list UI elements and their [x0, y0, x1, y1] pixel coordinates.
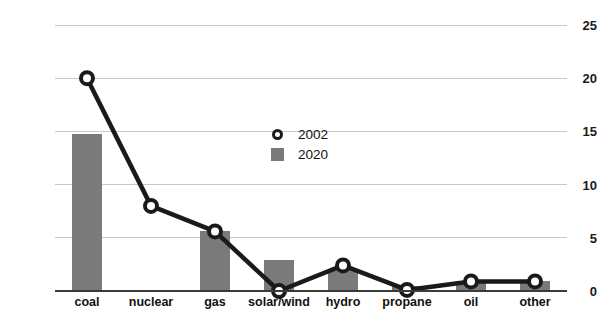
legend-label-2020: 2020 — [298, 147, 328, 162]
circle-marker-icon — [264, 129, 290, 140]
chart-container: 0510152025 coalnucleargassolar/windhydro… — [0, 0, 597, 333]
gridline — [55, 25, 567, 26]
gridline — [55, 78, 567, 79]
x-tick-label: oil — [439, 296, 503, 310]
bar — [72, 134, 101, 291]
x-axis-line — [55, 290, 567, 292]
y-tick-label: 5 — [553, 231, 597, 244]
y-tick-label: 10 — [553, 178, 597, 191]
x-tick-label: other — [503, 296, 567, 310]
gridline — [55, 184, 567, 185]
x-tick-label: hydro — [311, 296, 375, 310]
bar — [328, 269, 357, 291]
x-tick-label: propane — [375, 296, 439, 310]
x-tick-label: nuclear — [119, 296, 183, 310]
legend-label-2002: 2002 — [298, 127, 328, 142]
x-tick-label: gas — [183, 296, 247, 310]
data-point-marker — [145, 200, 157, 212]
y-tick-label: 20 — [553, 72, 597, 85]
y-tick-label: 15 — [553, 125, 597, 138]
x-tick-label: solar/wind — [247, 296, 311, 310]
legend-item-2002: 2002 — [264, 126, 328, 143]
y-tick-label: 25 — [553, 19, 597, 32]
x-tick-label: coal — [55, 296, 119, 310]
bar — [200, 231, 229, 291]
legend-item-2020: 2020 — [264, 146, 328, 163]
chart-legend: 2002 2020 — [264, 126, 328, 163]
gridline — [55, 237, 567, 238]
bar — [264, 260, 293, 291]
square-swatch-icon — [264, 148, 290, 161]
